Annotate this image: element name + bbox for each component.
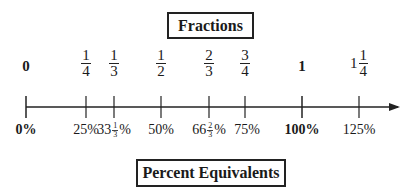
percent-label-100: 100% bbox=[272, 122, 332, 138]
percent-label-75: 75% bbox=[217, 122, 277, 138]
fraction-label-2-3: 23 bbox=[194, 48, 224, 79]
fractions-title: Fractions bbox=[167, 12, 254, 39]
fraction-label-1-4: 14 bbox=[71, 48, 101, 79]
fraction-label-1: 1 bbox=[287, 58, 317, 75]
percent-label-0: 0% bbox=[0, 122, 56, 138]
fraction-label-1-3: 13 bbox=[99, 48, 129, 79]
percent-label-125: 125% bbox=[329, 122, 389, 138]
fraction-label-3-4: 34 bbox=[230, 48, 260, 79]
fraction-label-1-1-4: 114 bbox=[339, 48, 379, 79]
percent-equivalents-title: Percent Equivalents bbox=[136, 159, 286, 187]
arrow-head-icon bbox=[389, 103, 400, 111]
fraction-label-1-2: 12 bbox=[146, 48, 176, 79]
fraction-label-0: 0 bbox=[11, 58, 41, 75]
